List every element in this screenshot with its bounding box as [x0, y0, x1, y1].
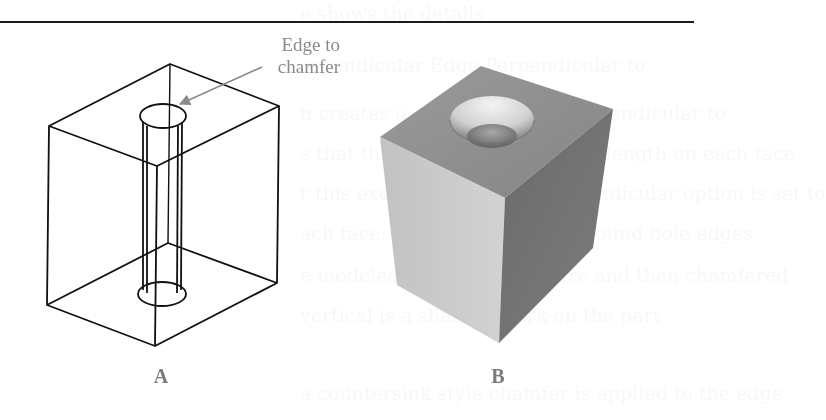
- hole-silhouette-right: [181, 122, 182, 290]
- hole-top-ellipse: [140, 104, 186, 128]
- shaded-block: [380, 66, 613, 343]
- top-face-outline: [49, 64, 279, 166]
- callout-line-1: Edge to: [200, 34, 340, 56]
- edge-right: [277, 106, 279, 283]
- edge-back-hidden: [168, 64, 170, 243]
- edge-front: [155, 166, 157, 346]
- panel-label-a: A: [146, 365, 176, 388]
- panel-label-b: B: [483, 365, 513, 388]
- wireframe-block: [47, 64, 279, 346]
- bottom-face-outline: [47, 243, 277, 346]
- callout-label: Edge to chamfer: [200, 34, 340, 78]
- callout-line-2: chamfer: [200, 56, 340, 78]
- hole-bottom-ellipse: [138, 282, 186, 306]
- hole-silhouette-right-inner: [177, 126, 178, 293]
- edge-left: [47, 126, 49, 305]
